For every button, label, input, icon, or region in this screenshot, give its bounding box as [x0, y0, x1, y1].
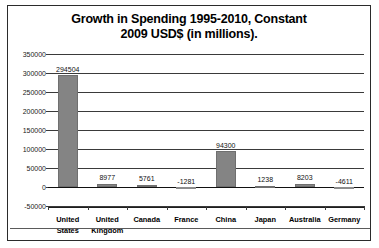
bar-slot: 8977 — [88, 54, 128, 206]
x-axis-category-label: France — [167, 214, 207, 225]
x-axis-tick-mark — [48, 206, 49, 210]
chart-title-line-2: 2009 USD$ (in millions). — [8, 27, 370, 42]
y-axis-tick-label: 50000 — [8, 165, 46, 172]
y-axis-tick-label: 350000 — [8, 51, 46, 58]
x-axis-tick-mark — [206, 206, 207, 210]
chart-title: Growth in Spending 1995-2010, Constant 2… — [8, 12, 370, 42]
x-axis-category-label: UnitedStates — [48, 214, 88, 236]
bar[interactable] — [216, 151, 236, 187]
bar-slot: 94300 — [206, 54, 246, 206]
x-axis-tick-mark — [285, 206, 286, 210]
x-axis-tick-mark — [167, 206, 168, 210]
y-axis-tick-label: 0 — [8, 184, 46, 191]
bar-value-label: -4611 — [336, 178, 353, 185]
chart-title-line-1: Growth in Spending 1995-2010, Constant — [8, 12, 370, 27]
x-axis-category-label: Canada — [127, 214, 167, 225]
bar[interactable] — [58, 75, 78, 187]
x-axis-label-line-1: Australia — [289, 215, 321, 224]
x-axis-tick-mark — [364, 206, 365, 210]
bar-value-label: 94300 — [216, 142, 235, 149]
bar[interactable] — [97, 184, 117, 187]
bar-value-label: 5761 — [139, 175, 155, 182]
x-axis-label-line-1: Japan — [255, 215, 276, 224]
y-axis-tick-label: 150000 — [8, 127, 46, 134]
x-axis-label-line-1: Canada — [133, 215, 160, 224]
chart-frame: Growth in Spending 1995-2010, Constant 2… — [7, 5, 371, 241]
x-axis-label-line-1: United — [56, 215, 79, 224]
x-axis-label-line-2: States — [48, 225, 88, 236]
x-axis-category-label: Japan — [246, 214, 286, 225]
x-axis-category-label: China — [206, 214, 246, 225]
bar[interactable] — [255, 186, 275, 188]
bar-slot: 8203 — [285, 54, 325, 206]
x-axis-label-line-1: Germany — [328, 215, 360, 224]
y-axis-tick-label: 300000 — [8, 70, 46, 77]
x-axis-tick-mark — [88, 206, 89, 210]
x-axis-category-label: Australia — [285, 214, 325, 225]
bar-value-label: 8203 — [297, 174, 313, 181]
bar[interactable] — [137, 185, 157, 187]
x-axis-tick-mark — [325, 206, 326, 210]
y-axis-tick-label: 100000 — [8, 146, 46, 153]
plot-area: 29450489775761-12819430012388203-4611 — [48, 54, 364, 206]
bar-slot: 294504 — [48, 54, 88, 206]
bar-slot: 5761 — [127, 54, 167, 206]
x-axis-category-label: UnitedKingdom — [88, 214, 128, 236]
bar[interactable] — [334, 187, 354, 189]
x-axis: UnitedStatesUnitedKingdomCanadaFranceChi… — [48, 208, 364, 242]
bar[interactable] — [295, 184, 315, 187]
y-axis-tick-label: 200000 — [8, 108, 46, 115]
bar-slot: -4611 — [325, 54, 365, 206]
x-axis-tick-mark — [127, 206, 128, 210]
bar-value-label: 8977 — [99, 174, 115, 181]
bar-value-label: 294504 — [56, 66, 79, 73]
x-axis-label-line-1: China — [215, 215, 236, 224]
x-axis-label-line-1: United — [96, 215, 119, 224]
bar-slot: -1281 — [167, 54, 207, 206]
x-axis-label-line-1: France — [174, 215, 198, 224]
x-axis-category-label: Germany — [325, 214, 365, 225]
bar-value-label: 1238 — [257, 176, 273, 183]
bottom-rule — [10, 228, 370, 229]
x-axis-tick-mark — [246, 206, 247, 210]
y-axis-tick-label: 250000 — [8, 89, 46, 96]
bar[interactable] — [176, 187, 196, 189]
y-axis: 3500003000002500002000001500001000005000… — [8, 54, 46, 206]
bar-slot: 1238 — [246, 54, 286, 206]
y-axis-tick-label: -50000 — [8, 203, 46, 210]
bar-value-label: -1281 — [177, 178, 195, 185]
x-axis-label-line-2: Kingdom — [88, 225, 128, 236]
